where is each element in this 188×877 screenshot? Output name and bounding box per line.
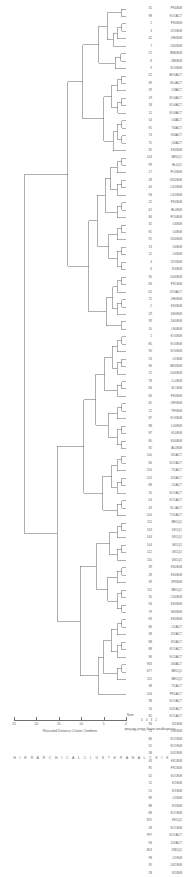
leaf-code: 870: [136, 817, 152, 824]
leaf-code: 997: [136, 832, 152, 839]
leaf-name: LI1808: [155, 795, 182, 802]
leaf-code: 803: [136, 847, 152, 854]
cluster-strip-numbers: 5 4 3 2: [141, 718, 158, 723]
leaf-name: KO1808: [155, 810, 182, 817]
leaf-name: SO1808: [155, 773, 182, 780]
axis-tick-label: 15: [52, 721, 66, 727]
leaf-code: 18: [136, 825, 152, 832]
leaf-label-row: 997KO1ACT: [0, 832, 183, 839]
leaf-code: 98: [136, 855, 152, 862]
leaf-label-row: 52KO1808: [0, 743, 183, 750]
leaf-label-row: 88KO1808: [0, 810, 183, 817]
leaf-code: 52: [136, 773, 152, 780]
leaf-code: 28: [136, 870, 152, 877]
leaf-name: ZM1Q1: [155, 847, 182, 854]
chart-title: Dendrogram using Ward Method: [112, 726, 188, 732]
leaf-label-row: 28KI1808: [0, 870, 183, 877]
leaf-label-row: 803ZM1Q1: [0, 847, 183, 854]
leaf-name: DI1ACT: [155, 840, 182, 847]
leaf-code: 52: [136, 743, 152, 750]
leaf-name: KK1Q1: [155, 817, 182, 824]
leaf-label-row: 88KI1808: [0, 803, 183, 810]
leaf-label-row: 89LI1808: [0, 795, 183, 802]
leaf-name: UU1808: [155, 862, 182, 869]
leaf-name: KO1808: [155, 825, 182, 832]
leaf-label-row: 98LI1808: [0, 855, 183, 862]
axis-tick-label: 20: [29, 721, 43, 727]
leaf-label-row: 18KO1808: [0, 825, 183, 832]
leaf-name: LI1808: [155, 855, 182, 862]
leaf-code: 88: [136, 810, 152, 817]
leaf-label-row: 95UU1808: [0, 862, 183, 869]
axis-tick-label: 10: [74, 721, 88, 727]
leaf-label-row: 95PK1808: [0, 765, 183, 772]
dendrogram-plot: [0, 0, 183, 715]
leaf-code: 95: [136, 862, 152, 869]
leaf-name: PK1808: [155, 765, 182, 772]
leaf-name: KO1808: [155, 743, 182, 750]
leaf-code: 11: [136, 780, 152, 787]
leaf-code: 94: [136, 840, 152, 847]
leaf-label-row: 51KI1808: [0, 788, 183, 795]
leaf-code: 89: [136, 795, 152, 802]
leaf-label-row: 11KI1808: [0, 780, 183, 787]
leaf-name: KI1808: [155, 803, 182, 810]
footer-banner: H I E R A R C H I C A L C L U S T E R A …: [0, 754, 183, 762]
leaf-label-row: 870KK1Q1: [0, 817, 183, 824]
leaf-name: KI1808: [155, 870, 182, 877]
axis-tick-label: 25: [7, 721, 21, 727]
axis-title: Rescaled Distance Cluster Combine: [14, 728, 126, 734]
dendrogram-svg: [0, 0, 183, 715]
cluster-strip-label: Num: [127, 713, 134, 718]
leaf-label-row: 52SO1808: [0, 773, 183, 780]
leaf-name: KI1808: [155, 788, 182, 795]
leaf-name: KO1ACT: [155, 832, 182, 839]
axis-tick-label: 5: [97, 721, 111, 727]
leaf-code: 51: [136, 788, 152, 795]
leaf-code: 88: [136, 803, 152, 810]
leaf-name: KI1808: [155, 780, 182, 787]
leaf-code: 95: [136, 765, 152, 772]
leaf-label-row: 94DI1ACT: [0, 840, 183, 847]
